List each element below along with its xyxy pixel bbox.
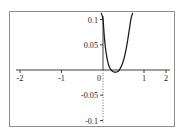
y-tick-label-0: 0.1 bbox=[88, 16, 98, 25]
data-curve bbox=[101, 13, 132, 72]
x-tick-label-1: -1 bbox=[58, 74, 65, 83]
plot-canvas: -2 -1 0 1 2 0.1 0.05 -0.05 -0.1 bbox=[0, 0, 185, 140]
x-tick-label-4: 2 bbox=[164, 74, 168, 83]
x-tick-label-2: 0 bbox=[97, 74, 101, 83]
y-tick-label-2: -0.05 bbox=[81, 91, 98, 100]
y-tick-label-1: 0.05 bbox=[84, 41, 98, 50]
plot-screenshot: -2 -1 0 1 2 0.1 0.05 -0.05 -0.1 bbox=[0, 0, 185, 140]
y-tick-label-3: -0.1 bbox=[85, 117, 98, 126]
x-tick-label-0: -2 bbox=[17, 74, 24, 83]
x-tick-label-3: 1 bbox=[142, 74, 146, 83]
